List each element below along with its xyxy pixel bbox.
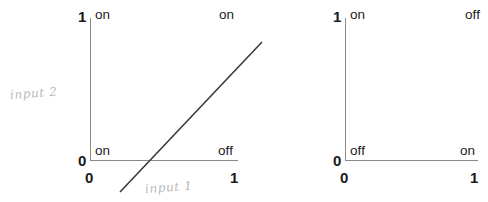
left-plot-ytick-0: 0 [78, 153, 86, 168]
right-plot-y-axis [345, 18, 346, 160]
right-plot-panel: 1 0 0 1 on off off on [300, 0, 488, 202]
left-plot-label-bottom-left: on [95, 144, 110, 158]
right-plot-ytick-1: 1 [333, 9, 341, 24]
left-plot-panel: 1 0 0 1 on on on off input 2 input 1 [0, 0, 300, 202]
left-plot-axis-label-y: input 2 [10, 86, 58, 101]
left-plot-ytick-1: 1 [78, 9, 86, 24]
right-plot-xtick-0: 0 [340, 170, 348, 185]
left-plot-decision-boundary [0, 0, 300, 202]
left-plot-label-top-left: on [95, 8, 110, 22]
right-plot-label-bottom-right: on [460, 144, 475, 158]
left-plot-label-bottom-right: off [218, 144, 233, 158]
left-plot-label-top-right: on [219, 8, 234, 22]
right-plot-label-top-left: on [350, 8, 365, 22]
right-plot-ytick-0: 0 [333, 153, 341, 168]
right-plot-xtick-1: 1 [470, 170, 478, 185]
figure-canvas: 1 0 0 1 on on on off input 2 input 1 1 0… [0, 0, 488, 202]
right-plot-label-top-right: off [465, 8, 480, 22]
left-plot-xtick-1: 1 [230, 170, 238, 185]
left-plot-axis-label-x: input 1 [145, 180, 193, 195]
right-plot-label-bottom-left: off [350, 144, 365, 158]
left-plot-xtick-0: 0 [85, 170, 93, 185]
right-plot-x-axis [345, 160, 478, 161]
